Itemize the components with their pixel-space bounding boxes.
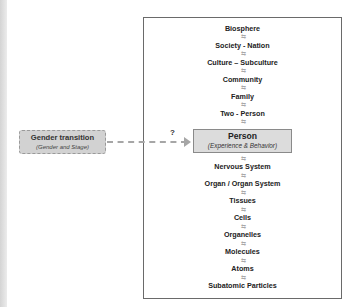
hierarchy-level: Molecules bbox=[143, 247, 342, 256]
bidirectional-arrow-icon: ⇆ bbox=[143, 51, 342, 57]
hierarchy-level: Biosphere bbox=[143, 24, 342, 33]
hierarchy-level: Organ / Organ System bbox=[143, 179, 342, 188]
gender-title: Gender transition bbox=[20, 133, 105, 143]
dashed-connector bbox=[107, 141, 187, 143]
hierarchy-level: Organelles bbox=[143, 230, 342, 239]
hierarchy-level: Family bbox=[143, 92, 342, 101]
arrow-head-icon bbox=[184, 137, 191, 147]
hierarchy-level: Culture – Subculture bbox=[143, 58, 342, 67]
gender-subtitle: (Gender and Stage) bbox=[20, 143, 105, 151]
hierarchy-level: Society - Nation bbox=[143, 41, 342, 50]
person-box: Person (Experience & Behavior) bbox=[193, 129, 292, 153]
gender-transition-box: Gender transition (Gender and Stage) bbox=[19, 130, 106, 154]
bidirectional-arrow-icon: ⇆ bbox=[143, 85, 342, 91]
hierarchy-level: Nervous System bbox=[143, 162, 342, 171]
hierarchy-level: Atoms bbox=[143, 264, 342, 273]
bidirectional-arrow-icon: ⇆ bbox=[143, 34, 342, 40]
bidirectional-arrow-icon: ⇆ bbox=[143, 119, 342, 125]
person-subtitle: (Experience & Behavior) bbox=[194, 142, 291, 150]
hierarchy-level: Tissues bbox=[143, 196, 342, 205]
connector-question-label: ? bbox=[170, 128, 175, 137]
hierarchy-level: Cells bbox=[143, 213, 342, 222]
page-edge-strip bbox=[0, 0, 7, 307]
person-title: Person bbox=[194, 131, 291, 142]
hierarchy-level: Two - Person bbox=[143, 109, 342, 118]
hierarchy-level: Community bbox=[143, 75, 342, 84]
hierarchy-level: Subatomic Particles bbox=[143, 281, 342, 290]
bidirectional-arrow-icon: ⇆ bbox=[143, 68, 342, 74]
bidirectional-arrow-icon: ⇆ bbox=[143, 102, 342, 108]
